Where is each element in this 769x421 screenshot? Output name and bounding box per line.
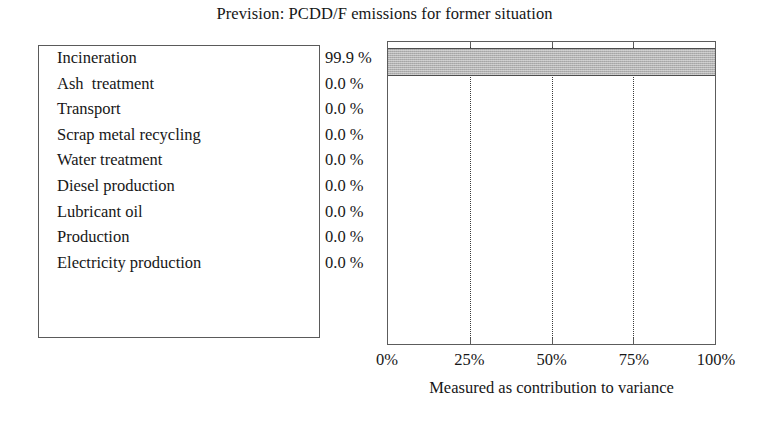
- x-axis-label: Measured as contribution to variance: [387, 378, 716, 398]
- legend-item-label: Water treatment: [38, 150, 322, 170]
- legend-row: Incineration 99.9 %: [38, 48, 438, 74]
- gridline-50: [552, 42, 553, 344]
- bottom-tick-50: [552, 338, 553, 344]
- legend-row: Diesel production 0.0 %: [38, 176, 438, 202]
- legend-row: Ash treatment 0.0 %: [38, 74, 438, 100]
- x-tick-label-25: 25%: [454, 350, 484, 370]
- legend-item-label: Lubricant oil: [38, 202, 322, 222]
- legend-item-label: Incineration: [38, 48, 322, 68]
- legend-item-label: Production: [38, 227, 322, 247]
- plot-area: [387, 41, 716, 345]
- x-tick-label-100: 100%: [697, 350, 736, 370]
- top-tick-25: [470, 42, 471, 47]
- x-tick-label-0: 0%: [376, 350, 398, 370]
- bottom-tick-25: [470, 338, 471, 344]
- x-axis-tick-labels: 0% 25% 50% 75% 100%: [387, 350, 716, 372]
- top-tick-75: [633, 42, 634, 47]
- x-tick-label-50: 50%: [536, 350, 566, 370]
- top-tick-50: [552, 42, 553, 47]
- gridline-75: [633, 42, 634, 344]
- legend-row: Production 0.0 %: [38, 227, 438, 253]
- bottom-tick-75: [633, 338, 634, 344]
- legend-item-label: Diesel production: [38, 176, 322, 196]
- bar-incineration: [388, 48, 715, 76]
- x-tick-label-75: 75%: [619, 350, 649, 370]
- legend-item-label: Transport: [38, 99, 322, 119]
- legend-item-label: Electricity production: [38, 253, 322, 273]
- legend-row: Lubricant oil 0.0 %: [38, 202, 438, 228]
- page-title: Prevision: PCDD/F emissions for former s…: [0, 4, 769, 24]
- legend-row: Water treatment 0.0 %: [38, 150, 438, 176]
- legend-row: Transport 0.0 %: [38, 99, 438, 125]
- legend-row: Scrap metal recycling 0.0 %: [38, 125, 438, 151]
- legend-item-label: Ash treatment: [38, 74, 322, 94]
- legend-row: Electricity production 0.0 %: [38, 253, 438, 279]
- plot-inner: [388, 42, 715, 344]
- gridline-25: [470, 42, 471, 344]
- legend-item-label: Scrap metal recycling: [38, 125, 322, 145]
- legend-rows: Incineration 99.9 % Ash treatment 0.0 % …: [38, 48, 438, 278]
